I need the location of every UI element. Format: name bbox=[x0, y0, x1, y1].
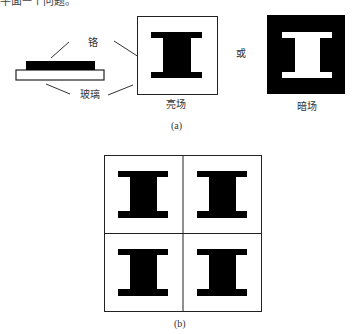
glass-substrate bbox=[16, 70, 104, 80]
bright-field-label: 亮场 bbox=[166, 99, 186, 111]
glass-leader-left bbox=[46, 84, 70, 94]
caption-b: (b) bbox=[174, 318, 186, 330]
glass-leader-right bbox=[108, 85, 133, 95]
or-label: 或 bbox=[236, 48, 246, 60]
chromium-layer bbox=[26, 61, 95, 70]
caption-a: (a) bbox=[171, 120, 182, 132]
chromium-leader-left bbox=[51, 42, 69, 58]
chromium-label: 铬 bbox=[88, 37, 98, 49]
diagram-canvas bbox=[0, 0, 356, 334]
glass-label: 玻璃 bbox=[80, 89, 100, 101]
dark-field-label: 暗场 bbox=[297, 101, 317, 113]
